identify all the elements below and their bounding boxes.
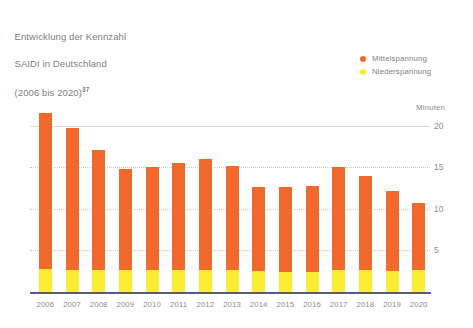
bar-segment-niederspannung-2011 [172, 270, 185, 292]
chart-title-footnote-marker: 37 [82, 86, 89, 93]
bar-segment-mittelspannung-2013 [226, 166, 239, 271]
chart-plot-area: Minuten 2015105 [30, 105, 430, 293]
chart-title-line-2: SAIDI in Deutschland [14, 58, 106, 69]
bar-segment-niederspannung-2010 [146, 270, 159, 292]
bar-segment-mittelspannung-2010 [146, 167, 159, 270]
x-tick-2012: 2012 [192, 300, 218, 309]
x-tick-2017: 2017 [326, 300, 352, 309]
x-tick-2007: 2007 [59, 300, 85, 309]
bar-2017[interactable] [332, 167, 345, 292]
bar-segment-mittelspannung-2014 [252, 187, 265, 271]
bar-2019[interactable] [386, 191, 399, 292]
chart-bars [30, 105, 430, 292]
bar-segment-mittelspannung-2016 [306, 186, 319, 272]
x-tick-2020: 2020 [406, 300, 432, 309]
x-tick-2014: 2014 [246, 300, 272, 309]
chart-legend: Mittelspannung Niederspannung [360, 52, 431, 78]
y-tick-20: 20 [434, 121, 444, 131]
bar-2011[interactable] [172, 163, 185, 292]
bar-segment-mittelspannung-2019 [386, 191, 399, 271]
bar-segment-niederspannung-2008 [92, 270, 105, 292]
legend-item-mittelspannung[interactable]: Mittelspannung [360, 52, 431, 65]
x-tick-2015: 2015 [272, 300, 298, 309]
bar-2014[interactable] [252, 187, 265, 292]
x-tick-2013: 2013 [219, 300, 245, 309]
x-tick-2008: 2008 [86, 300, 112, 309]
bar-segment-niederspannung-2009 [119, 270, 132, 292]
legend-swatch-mittelspannung [360, 56, 366, 62]
bar-segment-mittelspannung-2012 [199, 159, 212, 270]
chart-title-line-1: Entwicklung der Kennzahl [14, 31, 126, 42]
x-tick-2016: 2016 [299, 300, 325, 309]
bar-2015[interactable] [279, 187, 292, 292]
x-tick-2019: 2019 [379, 300, 405, 309]
bar-segment-niederspannung-2012 [199, 270, 212, 292]
bar-segment-niederspannung-2020 [412, 270, 425, 292]
legend-item-niederspannung[interactable]: Niederspannung [360, 65, 431, 78]
bar-2018[interactable] [359, 176, 372, 292]
bar-segment-mittelspannung-2020 [412, 203, 425, 270]
bar-segment-mittelspannung-2009 [119, 169, 132, 270]
bar-segment-niederspannung-2014 [252, 271, 265, 292]
y-tick-5: 5 [434, 245, 439, 255]
bar-segment-mittelspannung-2018 [359, 176, 372, 271]
bar-2008[interactable] [92, 150, 105, 292]
x-tick-2011: 2011 [166, 300, 192, 309]
x-tick-2009: 2009 [112, 300, 138, 309]
chart-title: Entwicklung der Kennzahl SAIDI in Deutsc… [9, 17, 126, 99]
bar-segment-mittelspannung-2007 [66, 128, 79, 269]
y-tick-15: 15 [434, 162, 444, 172]
y-tick-10: 10 [434, 204, 444, 214]
bar-2010[interactable] [146, 167, 159, 292]
bar-segment-mittelspannung-2011 [172, 163, 185, 270]
bar-2013[interactable] [226, 166, 239, 292]
bar-segment-niederspannung-2016 [306, 272, 319, 292]
bar-2007[interactable] [66, 128, 79, 292]
bar-segment-mittelspannung-2008 [92, 150, 105, 270]
legend-label-niederspannung: Niederspannung [372, 67, 431, 76]
bar-segment-niederspannung-2017 [332, 270, 345, 292]
x-axis-tick-labels: 2006200720082009201020112012201320142015… [30, 300, 430, 316]
bar-2006[interactable] [39, 113, 52, 292]
bar-2016[interactable] [306, 186, 319, 292]
bar-segment-mittelspannung-2015 [279, 187, 292, 272]
legend-swatch-niederspannung [360, 69, 366, 75]
legend-label-mittelspannung: Mittelspannung [372, 54, 427, 63]
bar-2009[interactable] [119, 169, 132, 292]
bar-segment-mittelspannung-2006 [39, 113, 52, 268]
bar-segment-niederspannung-2015 [279, 272, 292, 292]
bar-segment-niederspannung-2019 [386, 271, 399, 292]
x-tick-2018: 2018 [352, 300, 378, 309]
bar-segment-niederspannung-2013 [226, 270, 239, 292]
chart-title-line-3: (2006 bis 2020) [14, 87, 82, 98]
bar-2012[interactable] [199, 159, 212, 292]
bar-segment-niederspannung-2007 [66, 270, 79, 292]
bar-segment-niederspannung-2006 [39, 269, 52, 292]
x-axis-line [30, 292, 431, 294]
x-tick-2010: 2010 [139, 300, 165, 309]
bar-segment-niederspannung-2018 [359, 270, 372, 292]
bar-2020[interactable] [412, 203, 425, 292]
bar-segment-mittelspannung-2017 [332, 167, 345, 271]
x-tick-2006: 2006 [32, 300, 58, 309]
